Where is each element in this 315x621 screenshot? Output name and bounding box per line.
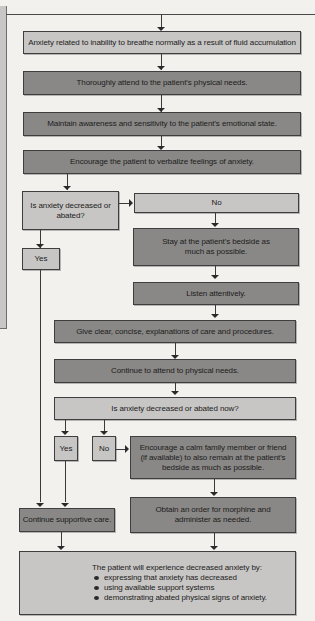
no-branch-2-box: Encourage a calm family member or friend… [130,436,296,479]
no-branch-1-text: Listen attentively. [186,289,245,299]
no-branch-1-box: Stay at the patient's bedside as much as… [133,228,299,266]
continue-care-box: Continue supportive care. [19,508,115,532]
arrow-down-icon [171,391,179,395]
intervention-text: Maintain awareness and sensitivity to th… [47,119,277,129]
arrow-down-icon [57,546,65,550]
outcome-bullet: demonstrating abated physical signs of a… [92,593,267,603]
arrow-down-icon [36,503,44,507]
intervention-box: Maintain awareness and sensitivity to th… [23,112,301,136]
decision-1-yes-label: Yes [35,254,48,264]
arrow-right-icon [129,199,133,207]
arrow-down-icon [157,66,165,70]
continued-intervention-text: Give clear, concise, explanations of car… [76,327,274,337]
no-branch-1-text: Stay at the patient's bedside as much as… [158,237,274,257]
decision-2-yes-label: Yes [60,444,73,454]
decision-box-1: Is anxiety decreased or abated? [22,191,119,230]
no-branch-1-box: Listen attentively. [133,282,299,305]
outcome-bullet: expressing that anxiety has decreased [92,573,267,583]
arrow-down-icon [211,314,219,318]
decision-1-no-label: No [211,198,221,208]
no-branch-2-text: Obtain an order for morphine and adminis… [151,505,275,525]
no-branch-2-text: Encourage a calm family member or friend… [139,443,287,473]
arrow-down-icon [100,431,108,435]
intervention-box: Encourage the patient to verbalize feeli… [23,150,301,174]
continued-intervention-text: Continue to attend to physical needs. [111,366,239,376]
arrow-right-icon [125,445,129,453]
arrow-down-icon [211,223,219,227]
connector [65,461,66,502]
intervention-text: Thoroughly attend to the patient's physi… [77,78,248,88]
continued-intervention-box: Give clear, concise, explanations of car… [54,320,296,343]
arrow-down-icon [61,431,69,435]
outcome-intro: The patient will experience decreased an… [92,563,262,573]
decision-2-no-label: No [99,444,109,454]
continue-care-text: Continue supportive care. [23,515,112,525]
continued-intervention-box: Continue to attend to physical needs. [54,359,296,383]
intervention-box: Thoroughly attend to the patient's physi… [23,71,301,95]
arrow-down-icon [211,275,219,279]
decision-2-no-box: No [92,436,116,461]
arrow-down-icon [210,546,218,550]
decision-1-no-box: No [134,193,299,213]
decision-2-question: Is anxiety decreased or abated now? [111,404,238,414]
connector [116,449,125,450]
nursing-diagnosis-box: Anxiety related to inability to breathe … [23,31,301,54]
decision-2-yes-box: Yes [54,436,78,461]
nursing-diagnosis-text: Anxiety related to inability to breathe … [28,38,296,48]
no-branch-2-box: Obtain an order for morphine and adminis… [130,497,296,533]
intervention-text: Encourage the patient to verbalize feeli… [70,157,254,167]
decision-box-2: Is anxiety decreased or abated now? [54,397,296,420]
arrow-down-icon [210,492,218,496]
decision-1-yes-box: Yes [22,248,60,270]
outcome-bullet: using available support systems [92,583,267,593]
connector [40,270,41,502]
arrow-down-icon [61,503,69,507]
outcome-list: expressing that anxiety has decreased us… [92,573,267,603]
sidebar-strip [0,6,7,329]
decision-1-question: Is anxiety decreased or abated? [29,201,112,221]
arrow-down-icon [63,186,71,190]
outcome-box: The patient will experience decreased an… [19,551,296,615]
